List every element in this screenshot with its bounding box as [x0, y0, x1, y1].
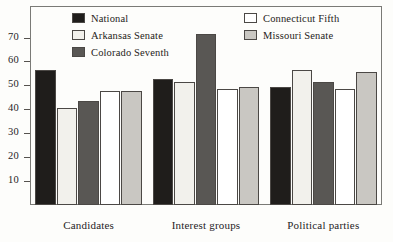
- bar: [335, 89, 356, 205]
- legend-item-arkansas-senate: Arkansas Senate: [72, 27, 169, 43]
- bar: [292, 70, 313, 205]
- x-tick-label-political-parties: Political parties: [263, 219, 383, 231]
- y-tick-label-50: 50: [8, 78, 19, 89]
- x-tick-label-candidates: Candidates: [29, 219, 149, 231]
- bar: [174, 82, 195, 205]
- chart-legend: National Arkansas Senate Colorado Sevent…: [30, 6, 382, 62]
- y-tick-label-70: 70: [8, 31, 19, 42]
- legend-swatch-icon: [244, 30, 257, 40]
- legend-item-national: National: [72, 10, 169, 26]
- bar: [100, 91, 121, 205]
- bar: [153, 79, 174, 205]
- legend-swatch-icon: [244, 13, 257, 23]
- legend-label: Arkansas Senate: [91, 30, 163, 41]
- y-tick-label-10: 10: [8, 174, 19, 185]
- y-tick-label-40: 40: [8, 102, 19, 113]
- legend-column-right: Connecticut Fifth Missouri Senate: [244, 10, 339, 44]
- legend-item-missouri-senate: Missouri Senate: [244, 27, 339, 43]
- legend-label: Colorado Seventh: [91, 47, 169, 58]
- legend-item-colorado-seventh: Colorado Seventh: [72, 44, 169, 60]
- bar-chart-figure: 70 60 50 40 30 20 10 Candidat: [0, 0, 393, 242]
- bar: [217, 89, 238, 205]
- y-tick-label-30: 30: [8, 126, 19, 137]
- y-tick-label-20: 20: [8, 150, 19, 161]
- x-axis: Candidates Interest groups Political par…: [30, 207, 382, 242]
- y-tick-label-60: 60: [8, 54, 19, 65]
- bar: [78, 101, 99, 205]
- bar: [356, 72, 377, 205]
- bar: [121, 91, 142, 205]
- legend-swatch-icon: [72, 47, 85, 57]
- legend-item-connecticut-fifth: Connecticut Fifth: [244, 10, 339, 26]
- bar: [270, 87, 291, 206]
- y-axis: 70 60 50 40 30 20 10: [0, 0, 30, 205]
- legend-swatch-icon: [72, 30, 85, 40]
- legend-label: Connecticut Fifth: [263, 13, 339, 24]
- bar: [35, 70, 56, 205]
- x-tick-label-interest-groups: Interest groups: [146, 219, 266, 231]
- bar: [239, 87, 260, 206]
- legend-label: Missouri Senate: [263, 30, 333, 41]
- legend-swatch-icon: [72, 13, 85, 23]
- legend-column-left: National Arkansas Senate Colorado Sevent…: [72, 10, 169, 61]
- bar: [57, 108, 78, 205]
- legend-label: National: [91, 13, 128, 24]
- bar: [313, 82, 334, 205]
